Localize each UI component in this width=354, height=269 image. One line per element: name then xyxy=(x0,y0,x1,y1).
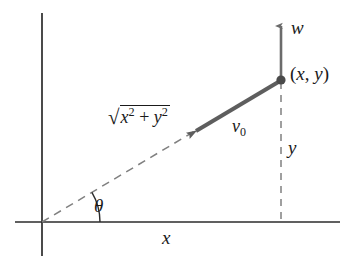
horizontal-leg-label: x xyxy=(162,228,170,247)
velocity-subscript: 0 xyxy=(240,125,246,139)
hypotenuse-length-label: √x2 + y2 xyxy=(108,106,170,128)
angle-theta-label: θ xyxy=(94,196,103,215)
velocity-symbol: v xyxy=(232,116,240,136)
velocity-vector-label: v0 xyxy=(232,117,246,138)
w-axis-label: w xyxy=(291,18,304,37)
radical-sign: √ xyxy=(108,105,120,129)
point-x-label: x xyxy=(296,63,304,84)
point-coordinate-label: (x, y) xyxy=(290,64,329,83)
vertical-leg-label: y xyxy=(288,138,296,157)
point-marker xyxy=(276,75,285,84)
diagram-canvas xyxy=(0,0,354,269)
radical-plus: + xyxy=(139,107,149,127)
radical-term2-exponent: 2 xyxy=(162,105,168,119)
radical-term2-base: y xyxy=(154,107,162,127)
figure-container: w (x, y) v0 y x θ √x2 + y2 xyxy=(0,0,354,269)
radical-body: x2 + y2 xyxy=(120,105,170,127)
paren-close: ) xyxy=(323,63,329,84)
radical-term1-base: x xyxy=(121,107,129,127)
coord-comma: , xyxy=(305,63,315,84)
point-y-label: y xyxy=(314,63,322,84)
